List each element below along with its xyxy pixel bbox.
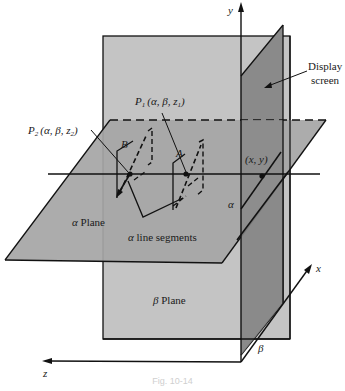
point-a-label: A [175,147,183,159]
alpha-line-segments-label: α line segments [128,231,197,243]
beta-plane-label: β Plane [152,294,186,306]
perspective-planes-diagram: y x z Display screen P1(α, β, z1) P2(α, … [0,0,345,391]
p1-label: P1(α, β, z1) [134,95,185,109]
p2-label: P2(α, β, z2) [27,124,78,138]
beta-marker-label: β [257,342,264,354]
display-screen-label-2: screen [311,74,340,86]
y-axis-label: y [227,4,233,16]
display-screen-label: Display [308,60,343,72]
figure-caption: Fig. 10-14 [0,376,345,386]
z-axis [42,358,241,364]
x-axis-label: x [315,262,321,274]
point-b-label: B [121,138,128,150]
screen-point-label: (x, y) [245,153,268,166]
alpha-marker-label: α [228,198,234,210]
alpha-plane-label: α Plane [72,216,105,228]
